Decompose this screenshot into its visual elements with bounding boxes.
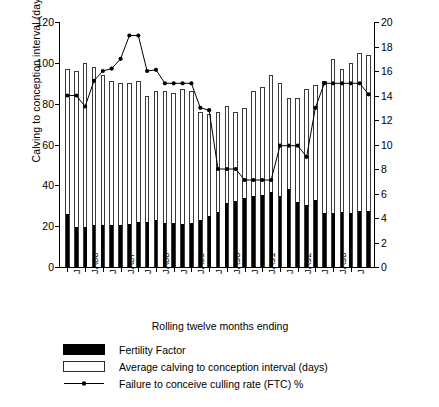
x-tick xyxy=(121,268,122,272)
ftc-data-point xyxy=(216,167,220,171)
legend-item-ftc-culling-rate: Failure to conceive culling rate (FTC) % xyxy=(63,375,328,392)
plot-area: 020406080100120 02468101214161820 JJA86J… xyxy=(59,22,375,268)
y-tick-right xyxy=(375,145,379,146)
y-tick-right xyxy=(375,47,379,48)
y-tick-right xyxy=(375,169,379,170)
ftc-data-point xyxy=(340,81,344,85)
y-tick-right xyxy=(375,96,379,97)
legend-label: Average calving to conception interval (… xyxy=(119,361,328,373)
y-tick-label-right: 14 xyxy=(381,91,421,101)
y-tick-label-right: 18 xyxy=(381,42,421,52)
x-tick xyxy=(103,268,104,272)
y-tick-label-left: 60 xyxy=(0,140,54,150)
y-tick-label-right: 4 xyxy=(381,213,421,223)
ftc-data-point xyxy=(101,69,105,73)
x-tick-label: J xyxy=(107,269,118,274)
legend-open-swatch-icon xyxy=(63,361,105,372)
y-tick-label-left: 120 xyxy=(0,17,54,27)
ftc-data-point xyxy=(305,155,309,159)
legend-item-calving-interval: Average calving to conception interval (… xyxy=(63,358,328,375)
ftc-data-point xyxy=(207,108,211,112)
ftc-data-point xyxy=(322,81,326,85)
y-tick-label-left: 20 xyxy=(0,221,54,231)
x-tick xyxy=(298,268,299,272)
legend-label: Fertility Factor xyxy=(119,344,186,356)
y-tick-right xyxy=(375,120,379,121)
chart-figure: Calving to conception interval (days) Fe… xyxy=(0,0,439,407)
ftc-data-point xyxy=(172,81,176,85)
x-tick xyxy=(85,268,86,272)
y-tick-label-left: 0 xyxy=(0,262,54,272)
y-tick-right xyxy=(375,267,379,268)
y-tick-label-right: 12 xyxy=(381,115,421,125)
y-tick-label-right: 20 xyxy=(381,17,421,27)
x-tick xyxy=(156,268,157,272)
y-tick-right xyxy=(375,22,379,23)
ftc-data-point xyxy=(136,33,140,37)
y-tick-label-left: 100 xyxy=(0,58,54,68)
x-tick-label: J xyxy=(178,269,189,274)
x-tick xyxy=(351,268,352,272)
legend-label: Failure to conceive culling rate (FTC) % xyxy=(119,378,303,390)
ftc-data-point xyxy=(331,81,335,85)
ftc-data-point xyxy=(65,93,69,97)
x-tick xyxy=(262,268,263,272)
ftc-data-point xyxy=(367,92,371,96)
ftc-data-point xyxy=(92,79,96,83)
x-tick xyxy=(138,268,139,272)
series-ftc-culling-line xyxy=(59,22,375,268)
x-tick-label: J xyxy=(355,269,366,274)
ftc-data-point xyxy=(358,81,362,85)
x-tick xyxy=(209,268,210,272)
x-tick xyxy=(280,268,281,272)
chart-legend: Fertility Factor Average calving to conc… xyxy=(63,341,328,392)
x-tick xyxy=(174,268,175,272)
ftc-data-point xyxy=(287,144,291,148)
x-tick xyxy=(227,268,228,272)
y-tick-label-right: 2 xyxy=(381,238,421,248)
y-tick-label-right: 16 xyxy=(381,66,421,76)
y-tick-right xyxy=(375,218,379,219)
ftc-data-point xyxy=(181,81,185,85)
legend-item-fertility-factor: Fertility Factor xyxy=(63,341,328,358)
y-tick-right xyxy=(375,71,379,72)
x-tick xyxy=(67,268,68,272)
y-tick-label-right: 6 xyxy=(381,189,421,199)
ftc-data-point xyxy=(234,167,238,171)
y-tick-label-left: 40 xyxy=(0,180,54,190)
ftc-data-point xyxy=(83,104,87,108)
y-tick-label-right: 0 xyxy=(381,262,421,272)
ftc-data-point xyxy=(296,144,300,148)
x-tick-label: J xyxy=(142,269,153,274)
x-tick xyxy=(245,268,246,272)
ftc-data-point xyxy=(278,144,282,148)
x-tick-label: J xyxy=(249,269,260,274)
x-axis-title: Rolling twelve months ending xyxy=(60,320,380,332)
x-tick-label: J xyxy=(284,269,295,274)
x-tick xyxy=(315,268,316,272)
x-tick-label: J xyxy=(319,269,330,274)
ftc-data-point xyxy=(127,33,131,37)
y-tick-label-right: 10 xyxy=(381,140,421,150)
y-tick-right xyxy=(375,194,379,195)
ftc-data-point xyxy=(145,69,149,73)
ftc-data-point xyxy=(260,178,264,182)
x-tick xyxy=(191,268,192,272)
ftc-data-point xyxy=(225,167,229,171)
legend-solid-swatch-icon xyxy=(63,344,105,355)
ftc-data-point xyxy=(243,178,247,182)
ftc-data-point xyxy=(349,81,353,85)
ftc-data-point xyxy=(74,93,78,97)
ftc-data-point xyxy=(163,81,167,85)
ftc-data-point xyxy=(119,57,123,61)
x-tick xyxy=(333,268,334,272)
y-tick-label-left: 80 xyxy=(0,99,54,109)
x-tick-label: J xyxy=(213,269,224,274)
x-tick-label: J xyxy=(71,269,82,274)
ftc-data-point xyxy=(313,106,317,110)
ftc-data-point xyxy=(154,68,158,72)
y-tick-label-right: 8 xyxy=(381,164,421,174)
y-tick-right xyxy=(375,243,379,244)
ftc-data-point xyxy=(189,81,193,85)
ftc-data-point xyxy=(251,178,255,182)
